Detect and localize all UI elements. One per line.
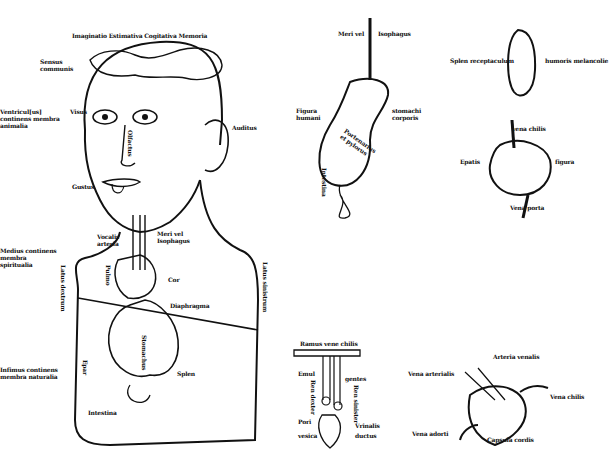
label-epar: Epar xyxy=(82,360,89,375)
face-outline xyxy=(85,130,200,232)
label-heart-vena-adorti: Vena adorti xyxy=(412,430,448,437)
label-liver-top: vena chilis xyxy=(512,125,546,132)
label-cor: Cor xyxy=(168,276,179,283)
label-spleen-left: Splen receptaculum xyxy=(450,57,514,64)
label-kidney-gentes: gentes xyxy=(345,375,366,382)
label-visus: Visus xyxy=(70,108,82,115)
label-kidney-vrinalis: Vrinalis xyxy=(355,422,380,429)
label-latus-sinistrum: Latus sinistrum xyxy=(262,262,269,312)
label-stomachus: Stomachus xyxy=(141,335,148,370)
label-kidney-ren-dexter: Ren dexter xyxy=(310,380,317,415)
label-esophagus: Meri vel Isophagus xyxy=(157,230,195,244)
lungs xyxy=(115,255,156,298)
label-liver-left: Epatis xyxy=(460,158,480,165)
label-heart-vena-arterialis: Vena arterialis xyxy=(408,370,454,377)
label-heart-capsula: Capsula cordis xyxy=(487,436,534,443)
brain-lobes xyxy=(90,48,222,79)
label-kidney-ductus: ductus xyxy=(355,432,377,439)
label-auditus: Auditus xyxy=(232,124,257,131)
label-stomach-left: Figura humani xyxy=(296,107,324,121)
label-gustus: Gustus xyxy=(72,183,94,190)
label-latus-dextrum: Latus dextrum xyxy=(60,265,67,311)
label-pulmo: Pulmo xyxy=(105,265,112,286)
label-kidney-top: Ramus vene chilis xyxy=(300,340,358,347)
ear xyxy=(205,120,228,171)
label-kidney-ren-sinister: Ren sinister xyxy=(353,385,360,423)
label-olfactus: Olfactus xyxy=(127,130,134,157)
woodcut-illustration xyxy=(0,0,611,474)
label-head-top: Imaginatio Estimativa Cogitativa Memoria xyxy=(72,32,207,39)
mouth xyxy=(103,179,140,187)
label-diaphragma: Diaphragma xyxy=(170,302,209,309)
label-heart-vena-chilis: Vena chilis xyxy=(550,393,584,400)
label-infimus-venter: Infimus continens membra naturalia xyxy=(0,366,60,380)
label-ventriculus: Ventricul[us] continens membra animalia xyxy=(0,108,60,129)
label-sensus-communis: Sensus communis xyxy=(40,58,78,72)
label-liver-bottom: Vena porta xyxy=(510,204,544,211)
label-kidney-vesica: vesica xyxy=(298,432,317,439)
label-stomach-right: stomachi corporis xyxy=(392,107,422,121)
label-kidney-pori: Pori xyxy=(298,418,311,425)
label-kidney-emul: Emul xyxy=(298,370,315,377)
label-liver-right: figura xyxy=(555,158,574,165)
label-stomach-top-right: Isophagus xyxy=(378,30,411,37)
label-medius-venter: Medius continens membra spiritualia xyxy=(0,247,60,268)
label-stomach-bottom: Intestina xyxy=(321,168,328,197)
label-heart-arteria-venalis: Arteria venalis xyxy=(493,353,539,360)
kidney-diagram-bar xyxy=(294,350,360,356)
liver-diagram xyxy=(490,141,551,195)
label-stomach-top-left: Meri vel xyxy=(338,30,364,37)
label-intestina: Intestina xyxy=(88,409,117,416)
label-trachea: Vocalis arteria xyxy=(97,233,129,247)
label-spleen-right: humoris melancolie xyxy=(545,57,608,64)
label-splen: Splen xyxy=(177,370,195,377)
